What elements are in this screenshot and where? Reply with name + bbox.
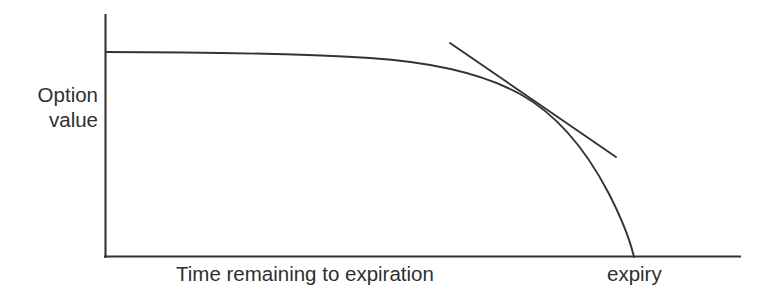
y-axis-label: Option value [0, 82, 98, 132]
chart-canvas [0, 0, 769, 300]
option-value-curve [106, 52, 634, 257]
y-axis-label-line-2: value [0, 107, 98, 132]
x-axis-label: Time remaining to expiration [176, 262, 434, 286]
y-axis-label-line-1: Option [0, 82, 98, 107]
tangent-line [450, 43, 616, 157]
option-time-decay-figure: Option value Time remaining to expiratio… [0, 0, 769, 300]
expiry-tick-label: expiry [607, 262, 662, 286]
